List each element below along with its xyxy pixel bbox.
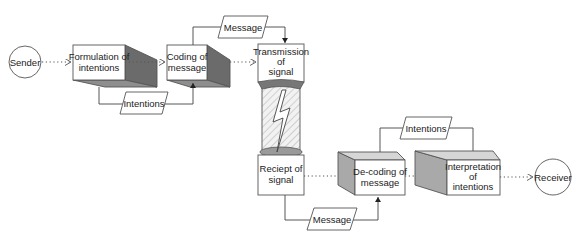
loop-line-intentions-right-a bbox=[380, 128, 404, 152]
message-data-top: Message bbox=[218, 16, 268, 38]
loop-line-message-top-b bbox=[262, 27, 285, 43]
message-data-bottom: Message bbox=[307, 208, 357, 230]
decoding-label-2: message bbox=[361, 177, 400, 188]
receipt-node: Reciept of signal bbox=[258, 155, 304, 195]
channel-cylinder bbox=[258, 80, 304, 158]
svg-text:Message: Message bbox=[224, 22, 263, 33]
formulation-label-1: Formulation of bbox=[69, 51, 130, 62]
coding-label-2: message bbox=[168, 62, 207, 73]
formulation-node: Formulation of intentions bbox=[69, 45, 157, 87]
decoding-label-1: De-coding of bbox=[353, 166, 407, 177]
receipt-label-2: signal bbox=[269, 174, 294, 185]
interpretation-label-3: intentions bbox=[453, 181, 494, 192]
intentions-data-right: Intentions bbox=[400, 117, 452, 139]
receiver-label: Receiver bbox=[534, 172, 572, 183]
svg-text:Message: Message bbox=[313, 214, 352, 225]
interpretation-node: Interpretation of intentions bbox=[415, 151, 501, 195]
receipt-label-1: Reciept of bbox=[260, 163, 303, 174]
sender-label: Sender bbox=[10, 57, 41, 68]
coding-node: Coding of message bbox=[167, 45, 230, 87]
sender-node: Sender bbox=[9, 46, 41, 78]
loop-line-message-top-a bbox=[193, 27, 221, 45]
formulation-label-2: intentions bbox=[79, 62, 120, 73]
loop-line-intentions-left-a bbox=[99, 87, 123, 104]
transmission-node: Transmission of signal bbox=[253, 44, 309, 82]
svg-text:Intentions: Intentions bbox=[405, 123, 446, 134]
loop-line-message-bottom-a bbox=[285, 195, 310, 220]
receiver-node: Receiver bbox=[534, 159, 572, 195]
intentions-data-left: Intentions bbox=[120, 92, 168, 114]
decoding-node: De-coding of message bbox=[338, 152, 407, 195]
transmission-label-3: signal bbox=[269, 66, 294, 77]
svg-text:Intentions: Intentions bbox=[123, 98, 164, 109]
coding-label-1: Coding of bbox=[167, 51, 208, 62]
communication-diagram: Sender Formulation of intentions Coding … bbox=[0, 0, 588, 245]
